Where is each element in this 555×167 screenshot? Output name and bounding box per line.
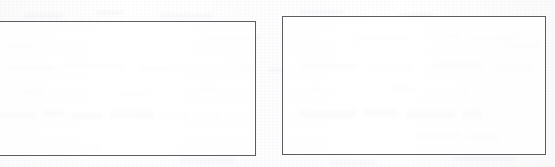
right-answer-box[interactable] [282,16,546,155]
scanned-page [0,0,555,167]
left-answer-box[interactable] [0,21,256,156]
